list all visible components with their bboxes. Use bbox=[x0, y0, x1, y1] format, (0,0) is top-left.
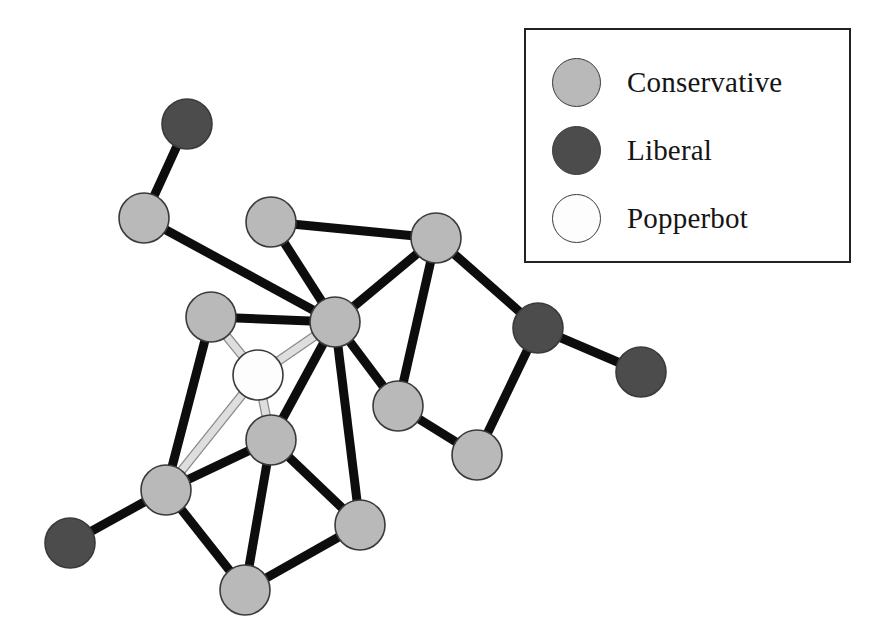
graph-node-conservative-C10[interactable] bbox=[220, 565, 270, 615]
liberal-swatch bbox=[552, 126, 601, 175]
legend-label: Conservative bbox=[627, 66, 782, 99]
graph-node-conservative-C2[interactable] bbox=[246, 197, 296, 247]
graph-node-conservative-C3[interactable] bbox=[411, 213, 461, 263]
legend-item-popperbot: Popperbot bbox=[552, 184, 849, 252]
figure-canvas: ConservativeLiberalPopperbot bbox=[0, 0, 882, 642]
graph-node-conservative-C8[interactable] bbox=[141, 465, 191, 515]
graph-node-liberal-L2[interactable] bbox=[513, 303, 563, 353]
graph-node-liberal-L4[interactable] bbox=[45, 518, 95, 568]
legend-item-liberal: Liberal bbox=[552, 116, 849, 184]
legend-item-conservative: Conservative bbox=[552, 48, 849, 116]
graph-node-conservative-C6[interactable] bbox=[246, 415, 296, 465]
conservative-swatch bbox=[552, 58, 601, 107]
popperbot-swatch bbox=[552, 194, 601, 243]
graph-node-conservative-C9[interactable] bbox=[335, 500, 385, 550]
graph-node-conservative-C7[interactable] bbox=[452, 430, 502, 480]
graph-node-conservative-C5[interactable] bbox=[373, 381, 423, 431]
graph-node-conservative-H[interactable] bbox=[310, 297, 360, 347]
legend-label: Popperbot bbox=[627, 202, 748, 235]
graph-node-liberal-L3[interactable] bbox=[616, 347, 666, 397]
graph-node-popperbot-P[interactable] bbox=[233, 350, 283, 400]
legend-label: Liberal bbox=[627, 134, 712, 167]
legend: ConservativeLiberalPopperbot bbox=[524, 28, 851, 263]
graph-node-conservative-C1[interactable] bbox=[119, 193, 169, 243]
graph-node-conservative-C4[interactable] bbox=[186, 292, 236, 342]
graph-node-liberal-L1[interactable] bbox=[162, 99, 212, 149]
legend-items: ConservativeLiberalPopperbot bbox=[526, 30, 849, 261]
